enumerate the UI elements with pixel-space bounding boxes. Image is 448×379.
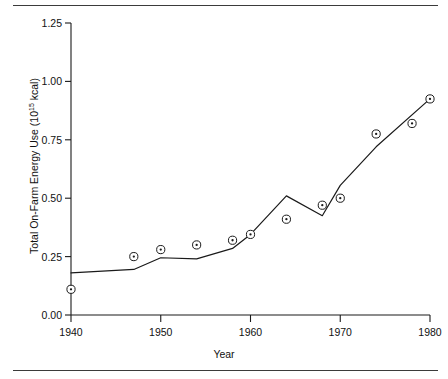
data-point-center-dot (196, 244, 198, 246)
axes (65, 23, 430, 322)
data-point-center-dot (429, 98, 431, 100)
data-markers (67, 95, 434, 294)
data-point-center-dot (160, 248, 162, 250)
x-axis-tick-label: 1970 (320, 327, 360, 338)
data-point-center-dot (231, 239, 233, 241)
y-axis-tick-label: 0.00 (28, 310, 62, 321)
y-axis-title-exponent: 15 (28, 103, 35, 111)
x-axis-tick-label: 1960 (231, 327, 271, 338)
chart-plot-area (0, 0, 448, 379)
data-point-center-dot (133, 255, 135, 257)
data-point-center-dot (285, 218, 287, 220)
y-axis-title-suffix: kcal) (28, 78, 40, 103)
data-point-center-dot (411, 122, 413, 124)
data-line (71, 99, 430, 273)
data-point-center-dot (321, 204, 323, 206)
x-axis-tick-label: 1940 (51, 327, 91, 338)
x-axis-tick-label: 1980 (410, 327, 448, 338)
data-point-center-dot (70, 288, 72, 290)
y-axis-title-main: Total On-Farm Energy Use (10 (28, 111, 40, 254)
trend-polyline (71, 99, 430, 273)
data-point-center-dot (249, 233, 251, 235)
data-point-center-dot (375, 133, 377, 135)
y-axis-title: Total On-Farm Energy Use (1015 kcal) (28, 51, 40, 281)
y-axis-tick-label: 1.25 (28, 18, 62, 29)
x-axis-tick-label: 1950 (141, 327, 181, 338)
figure-container: 0.000.250.500.751.001.25 194019501960197… (0, 0, 448, 379)
x-axis-title: Year (0, 348, 448, 360)
data-point-center-dot (339, 197, 341, 199)
